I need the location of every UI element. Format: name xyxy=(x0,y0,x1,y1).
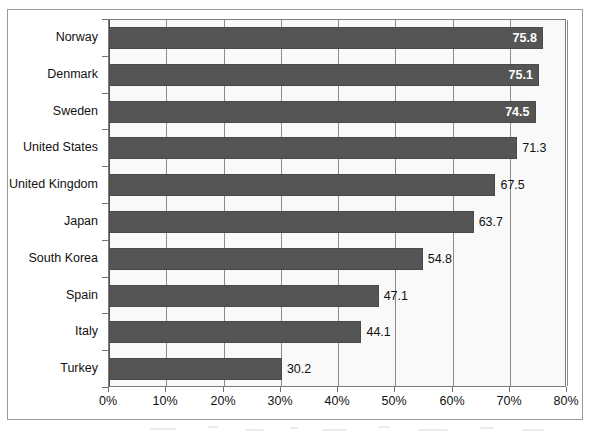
y-axis-tick xyxy=(102,350,108,351)
scan-artifact xyxy=(150,424,570,436)
bar-row: 54.8 xyxy=(109,241,565,278)
bar-row: 71.3 xyxy=(109,130,565,167)
bar[interactable] xyxy=(109,285,379,307)
y-axis-tick xyxy=(102,277,108,278)
x-axis-label-50pct: 50% xyxy=(381,394,406,408)
y-axis-label-south-korea: South Korea xyxy=(29,240,99,277)
bar-row: 44.1 xyxy=(109,314,565,351)
y-axis-tick xyxy=(102,240,108,241)
y-axis-label-united-kingdom: United Kingdom xyxy=(9,166,98,203)
bar-value-label: 63.7 xyxy=(479,211,503,233)
x-axis: 0%10%20%30%40%50%60%70%80% xyxy=(8,387,584,417)
x-axis-label-40pct: 40% xyxy=(324,394,349,408)
bar-row: 47.1 xyxy=(109,278,565,315)
y-axis-label-norway: Norway xyxy=(56,19,98,56)
x-axis-tick xyxy=(566,387,567,392)
bar[interactable] xyxy=(109,211,474,233)
x-axis-label-20pct: 20% xyxy=(210,394,235,408)
x-axis-tick xyxy=(165,387,166,392)
y-axis-tick xyxy=(102,313,108,314)
x-axis-label-10pct: 10% xyxy=(152,394,177,408)
bar-value-label: 54.8 xyxy=(428,248,452,270)
y-axis-tick xyxy=(102,93,108,94)
bar-row: 75.8 xyxy=(109,20,565,57)
x-axis-tick xyxy=(394,387,395,392)
bar-value-label: 30.2 xyxy=(287,358,311,380)
y-axis-category-labels: NorwayDenmarkSwedenUnited StatesUnited K… xyxy=(8,19,104,387)
y-axis-tick xyxy=(102,166,108,167)
bar-row: 63.7 xyxy=(109,204,565,241)
bar-row: 74.5 xyxy=(109,94,565,131)
bar-value-label: 75.1 xyxy=(109,64,533,86)
bar[interactable] xyxy=(109,358,282,380)
bar[interactable] xyxy=(109,321,361,343)
x-axis-label-30pct: 30% xyxy=(267,394,292,408)
x-axis-tick xyxy=(223,387,224,392)
x-axis-tick xyxy=(337,387,338,392)
gridline-80pct xyxy=(567,20,568,386)
x-axis-tick xyxy=(509,387,510,392)
bar-value-label: 75.8 xyxy=(109,27,537,49)
y-axis-label-spain: Spain xyxy=(66,277,98,314)
y-axis-tick xyxy=(102,203,108,204)
y-axis-tick xyxy=(102,387,108,388)
x-axis-label-80pct: 80% xyxy=(553,394,578,408)
x-axis-tick xyxy=(280,387,281,392)
bar[interactable] xyxy=(109,137,517,159)
bar-value-label: 74.5 xyxy=(109,101,530,123)
bar-value-label: 44.1 xyxy=(366,321,390,343)
bar[interactable] xyxy=(109,248,423,270)
y-axis-tick xyxy=(102,129,108,130)
bar[interactable] xyxy=(109,174,495,196)
plot-area: 75.875.174.571.367.563.754.847.144.130.2 xyxy=(108,19,566,387)
bar-value-label: 67.5 xyxy=(500,174,524,196)
x-axis-label-60pct: 60% xyxy=(439,394,464,408)
x-axis-tick xyxy=(452,387,453,392)
bar-row: 30.2 xyxy=(109,351,565,388)
bar-chart: NorwayDenmarkSwedenUnited StatesUnited K… xyxy=(8,10,584,421)
x-axis-label-0pct: 0% xyxy=(99,394,117,408)
bar-value-label: 71.3 xyxy=(522,137,546,159)
y-axis-label-italy: Italy xyxy=(75,313,98,350)
y-axis-tick xyxy=(102,56,108,57)
y-axis-label-sweden: Sweden xyxy=(53,93,98,130)
y-axis-label-united-states: United States xyxy=(23,129,98,166)
y-axis-tick xyxy=(102,19,108,20)
bar-row: 67.5 xyxy=(109,167,565,204)
x-axis-label-70pct: 70% xyxy=(496,394,521,408)
y-axis-label-turkey: Turkey xyxy=(60,350,98,387)
y-axis-label-denmark: Denmark xyxy=(47,56,98,93)
bar-value-label: 47.1 xyxy=(384,285,408,307)
bar-row: 75.1 xyxy=(109,57,565,94)
bars-layer: 75.875.174.571.367.563.754.847.144.130.2 xyxy=(109,20,565,386)
figure-frame: NorwayDenmarkSwedenUnited StatesUnited K… xyxy=(7,9,583,420)
y-axis-label-japan: Japan xyxy=(64,203,98,240)
x-axis-tick xyxy=(108,387,109,392)
